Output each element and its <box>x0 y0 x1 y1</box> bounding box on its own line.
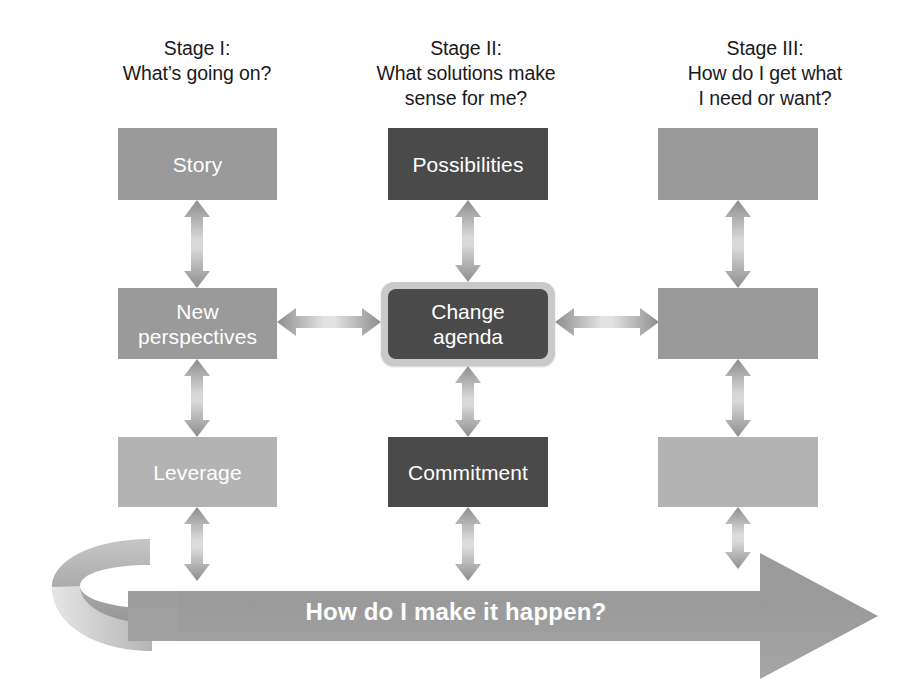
stage-header-2-question-line1: What solutions make <box>355 61 577 86</box>
box-change-agenda-frame[interactable]: Change agenda <box>381 282 555 366</box>
stage-header-3-question-line1: How do I get what <box>655 61 875 86</box>
stage-header-2-title: Stage II: <box>355 36 577 61</box>
arrow-vertical-story-perspectives <box>182 200 212 288</box>
box-leverage[interactable]: Leverage <box>118 437 277 507</box>
box-leverage-label: Leverage <box>147 460 247 485</box>
arrow-horizontal-agenda-stage3 <box>555 306 659 338</box>
arrow-horizontal-perspectives-agenda <box>277 306 381 338</box>
arrow-vertical-perspectives-leverage <box>182 359 212 437</box>
stage-header-3-title: Stage III: <box>655 36 875 61</box>
arrow-vertical-agenda-commitment <box>453 366 483 437</box>
stage-header-1-title: Stage I: <box>97 36 297 61</box>
stage-header-3-question-line2: I need or want? <box>655 86 875 111</box>
box-stage3-row3-blank[interactable] <box>658 437 818 507</box>
arrow-vertical-possibilities-agenda <box>453 200 483 282</box>
box-new-perspectives-line2: perspectives <box>138 325 257 348</box>
diagram-canvas: Stage I: What’s going on? Stage II: What… <box>0 0 912 697</box>
box-stage3-row1-blank[interactable] <box>658 128 818 200</box>
arrow-vertical-stage3-row2-row3 <box>723 359 753 437</box>
box-possibilities[interactable]: Possibilities <box>388 128 548 200</box>
box-story[interactable]: Story <box>118 128 277 200</box>
box-change-agenda: Change agenda <box>388 289 548 359</box>
box-story-label: Story <box>167 152 229 177</box>
box-new-perspectives[interactable]: New perspectives <box>118 288 277 359</box>
box-stage3-row2-blank[interactable] <box>658 288 818 359</box>
stage-header-1-question: What’s going on? <box>97 61 297 86</box>
box-change-agenda-line1: Change <box>431 300 505 323</box>
box-new-perspectives-line1: New <box>176 300 218 323</box>
box-new-perspectives-label: New perspectives <box>132 299 263 349</box>
stage-header-2: Stage II: What solutions make sense for … <box>355 36 577 111</box>
box-change-agenda-label: Change agenda <box>431 299 505 349</box>
stage-header-1: Stage I: What’s going on? <box>97 36 297 86</box>
box-commitment[interactable]: Commitment <box>388 437 548 507</box>
box-change-agenda-line2: agenda <box>433 325 503 348</box>
box-possibilities-label: Possibilities <box>406 152 529 177</box>
bottom-process-banner <box>0 515 912 697</box>
box-commitment-label: Commitment <box>402 460 534 485</box>
stage-header-3: Stage III: How do I get what I need or w… <box>655 36 875 111</box>
stage-header-2-question-line2: sense for me? <box>355 86 577 111</box>
arrow-vertical-stage3-row1-row2 <box>723 200 753 288</box>
